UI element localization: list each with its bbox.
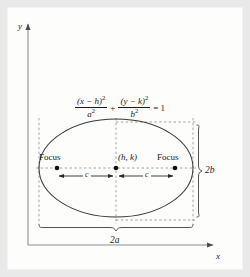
focus-right-label: Focus [157, 153, 179, 162]
center-point-label: (h, k) [118, 153, 137, 162]
equation-term-x: (x − h)2 a2 [75, 96, 107, 119]
horizontal-brace-2a [39, 224, 193, 231]
y-axis-label: y [18, 22, 22, 31]
equation-equals-one: = 1 [153, 103, 165, 113]
equation-plus-operator: + [110, 103, 115, 113]
focus-left-label: Focus [39, 153, 61, 162]
height-2b-label: 2b [205, 166, 215, 176]
focus-right-dot [173, 166, 178, 171]
equation-term-y: (y − k)2 b2 [118, 96, 150, 119]
focus-left-dot [55, 166, 60, 171]
c-left-label: c [83, 171, 91, 179]
figure-canvas [0, 0, 250, 277]
width-2a-label: 2a [110, 236, 120, 246]
equation-denominator-b: b2 [128, 108, 140, 119]
ellipse-equation: (x − h)2 a2 + (y − k)2 b2 = 1 [74, 96, 167, 119]
center-dot [114, 166, 119, 171]
vertical-brace-2b [197, 125, 203, 217]
c-right-label: c [143, 171, 151, 179]
x-axis-label: x [216, 252, 220, 261]
ellipse-figure: y x (x − h)2 a2 + (y − k)2 b2 = 1 Focus … [0, 0, 250, 277]
equation-denominator-a: a2 [85, 108, 97, 119]
